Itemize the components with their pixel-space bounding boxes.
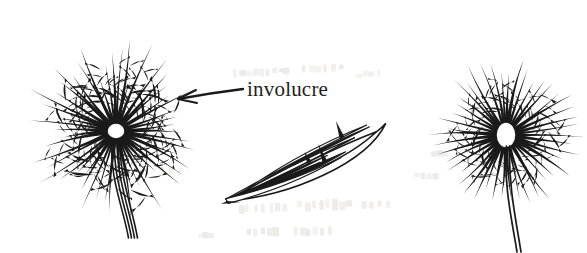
bleed-mark xyxy=(178,168,183,173)
lateral-spur xyxy=(336,121,345,139)
bleed-mark xyxy=(320,228,324,236)
bract-barb xyxy=(148,173,168,178)
center-involucre-lateral xyxy=(221,121,386,204)
left-involucre-head xyxy=(30,40,197,238)
bleed-mark xyxy=(245,204,249,212)
bleed-mark xyxy=(272,227,279,237)
bleed-mark xyxy=(363,71,368,77)
bleed-mark xyxy=(282,204,287,212)
bleed-mark xyxy=(325,199,330,208)
bract-spike xyxy=(121,130,194,150)
bleed-mark xyxy=(297,201,303,208)
right-involucre-head xyxy=(427,60,584,252)
bract-barb xyxy=(475,160,489,163)
bleed-mark xyxy=(279,68,283,72)
bleed-mark xyxy=(377,200,381,206)
bract-barb xyxy=(488,78,499,82)
bract-barb xyxy=(156,104,172,113)
involucre-label: involucre xyxy=(247,77,328,101)
bleed-mark xyxy=(254,205,257,213)
bleed-mark xyxy=(247,229,251,235)
bleed-mark xyxy=(305,229,310,236)
bleed-mark xyxy=(302,65,305,72)
bract-barb xyxy=(119,65,131,78)
bleed-mark xyxy=(246,71,252,77)
bract-barb xyxy=(528,96,540,98)
bleed-mark xyxy=(319,200,324,210)
bleed-mark xyxy=(239,70,246,76)
bleed-mark xyxy=(267,228,272,236)
bract-barb xyxy=(558,135,571,147)
bleed-mark xyxy=(312,227,318,235)
bleed-mark xyxy=(312,200,316,208)
bleed-mark xyxy=(294,226,298,236)
bleed-mark xyxy=(331,64,337,71)
bleed-mark xyxy=(431,151,437,157)
bleed-mark xyxy=(265,69,270,77)
bleed-mark xyxy=(323,64,326,73)
bract-barb xyxy=(64,78,68,101)
bleed-mark xyxy=(207,233,214,238)
bract-barb xyxy=(555,121,563,128)
bleed-mark xyxy=(275,202,281,211)
bract-barb xyxy=(87,74,103,78)
bleed-mark xyxy=(386,200,391,208)
bleed-mark xyxy=(260,69,265,77)
bleed-mark xyxy=(305,202,311,211)
bleed-mark xyxy=(300,227,307,235)
bract-barb xyxy=(446,125,458,141)
bleed-mark xyxy=(339,201,346,210)
lateral-base-point xyxy=(221,201,241,204)
bract-barb xyxy=(140,65,148,81)
bract-barb xyxy=(53,154,57,177)
bract-barb xyxy=(130,60,144,66)
receptacle xyxy=(496,122,516,148)
annotation-layer: involucre xyxy=(178,77,328,103)
bract-barb xyxy=(64,169,94,175)
bleed-mark xyxy=(283,67,290,74)
bleed-mark xyxy=(261,204,265,213)
bract-barb xyxy=(143,69,158,73)
bleed-mark xyxy=(269,203,273,213)
leader-arrow xyxy=(178,89,243,103)
bract-barb xyxy=(480,174,495,176)
bleed-mark xyxy=(253,68,260,76)
bleed-mark xyxy=(345,200,352,207)
bleed-mark xyxy=(414,173,421,177)
bleed-mark xyxy=(421,172,425,179)
botanical-figure: involucre xyxy=(0,0,587,253)
bleed-mark xyxy=(261,227,266,234)
bract-barb xyxy=(105,75,115,86)
bleed-mark xyxy=(362,201,367,209)
bleed-mark xyxy=(369,202,374,209)
bleed-mark xyxy=(309,65,315,72)
bleed-mark xyxy=(368,71,375,77)
bleed-mark xyxy=(272,68,277,74)
bleed-mark xyxy=(315,66,321,73)
arrowhead-lower xyxy=(178,99,197,103)
figure-canvas: involucre xyxy=(0,0,587,253)
bract-barb xyxy=(45,110,56,121)
bract-barb xyxy=(68,97,79,101)
bleed-mark xyxy=(377,70,381,77)
bract-barb xyxy=(156,84,160,105)
bleed-mark xyxy=(356,74,363,78)
bleed-mark xyxy=(328,226,332,236)
bract-barb xyxy=(61,140,75,149)
receptacle xyxy=(107,123,125,139)
bleed-mark xyxy=(233,69,237,78)
bleed-mark xyxy=(432,173,438,180)
bleed-mark xyxy=(253,229,257,237)
bleed-mark xyxy=(332,199,339,211)
bract-barb xyxy=(51,158,65,164)
bleed-mark xyxy=(426,174,432,180)
bleed-mark xyxy=(239,205,245,214)
bleed-mark xyxy=(339,65,344,70)
specimen-layer xyxy=(30,40,585,252)
bract-barb xyxy=(132,196,146,212)
